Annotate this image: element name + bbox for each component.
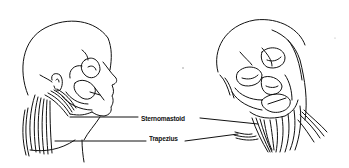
label-trapezius: Trapezius xyxy=(149,134,178,143)
front-head-drawing xyxy=(217,20,327,152)
stray-mark xyxy=(182,67,184,69)
anatomy-diagram: Sternomastoid Trapezius xyxy=(0,0,349,168)
label-sternomastoid: Sternomastoid xyxy=(141,114,185,123)
trapezius-leader-right xyxy=(185,134,238,141)
sternomastoid-leader-right xyxy=(200,118,258,124)
stray-mark xyxy=(334,37,335,38)
